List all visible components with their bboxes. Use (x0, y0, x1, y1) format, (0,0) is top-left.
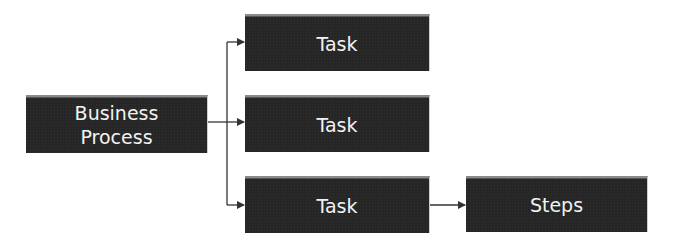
business-process-label-line2: Process (75, 125, 159, 149)
task-node-2: Task (245, 95, 430, 152)
task-label: Task (316, 194, 357, 218)
task-node-1: Task (245, 14, 430, 71)
business-process-node: Business Process (26, 95, 208, 153)
steps-node: Steps (466, 176, 648, 232)
task-label: Task (316, 32, 357, 56)
task-label: Task (316, 113, 357, 137)
steps-label: Steps (530, 193, 583, 217)
task-node-3: Task (245, 176, 430, 233)
business-process-label-line1: Business (75, 101, 159, 125)
